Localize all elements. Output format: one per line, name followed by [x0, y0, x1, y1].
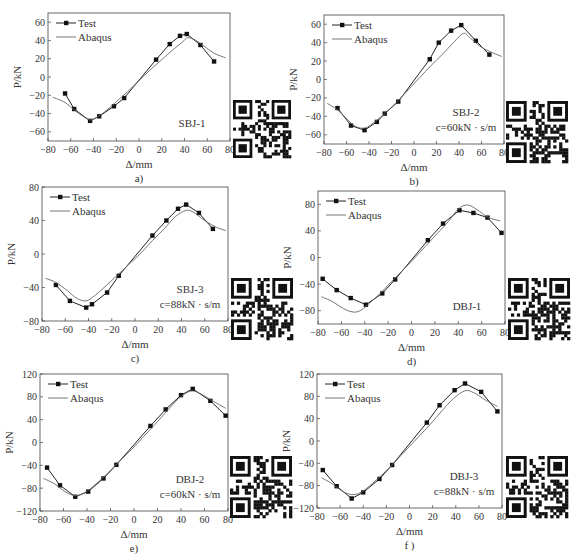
data-point [212, 59, 216, 63]
panel-label: e) [130, 542, 139, 554]
data-point [437, 403, 441, 407]
x-axis-label: Δ/mm [121, 338, 149, 350]
panel-label: a) [135, 172, 144, 185]
legend-marker-icon [340, 23, 344, 27]
chart-panel-f: −80−60−40−20020406080−120−80−4004080120Δ… [280, 369, 568, 553]
data-point [184, 202, 188, 206]
y-tick-label: 20 [311, 56, 321, 67]
data-point [178, 34, 182, 38]
legend-marker-icon [58, 195, 62, 199]
data-point [428, 57, 432, 61]
x-tick-label: 60 [202, 144, 212, 155]
legend-test-label: Test [72, 191, 90, 203]
data-point [164, 218, 168, 222]
data-point [154, 57, 158, 61]
x-tick-label: −40 [355, 511, 371, 522]
x-axis-label: Δ/mm [120, 528, 148, 540]
panel-label: b) [409, 175, 419, 188]
x-tick-label: 20 [153, 514, 163, 525]
x-tick-label: −20 [384, 147, 400, 158]
x-tick-label: −80 [316, 147, 332, 158]
x-tick-label: −60 [63, 144, 79, 155]
x-tick-label: 60 [477, 327, 487, 338]
x-tick-label: −20 [380, 327, 396, 338]
y-axis-label: P/kN [5, 243, 17, 266]
qr-code-icon [506, 456, 568, 518]
legend-abaqus-label: Abaqus [72, 205, 106, 217]
y-tick-label: −40 [23, 282, 39, 293]
x-axis-label: Δ/mm [400, 161, 428, 173]
damping-label: c=60kN · s/m [436, 121, 497, 133]
data-point [45, 465, 49, 469]
x-tick-label: 40 [453, 327, 463, 338]
x-axis-label: Δ/mm [398, 341, 426, 353]
legend-marker-icon [56, 382, 60, 386]
x-axis-label: Δ/mm [396, 525, 424, 537]
x-tick-label: −60 [56, 514, 72, 525]
specimen-label: SBJ-3 [177, 283, 204, 295]
y-tick-label: 40 [29, 215, 39, 226]
x-tick-label: 40 [451, 511, 461, 522]
data-point [471, 211, 475, 215]
legend-marker-icon [334, 199, 338, 203]
y-tick-label: 0 [32, 437, 37, 448]
y-tick-label: 40 [304, 413, 314, 424]
x-tick-label: −20 [103, 514, 119, 525]
data-point [90, 302, 94, 306]
x-tick-label: −60 [57, 324, 73, 335]
legend-test-label: Test [78, 17, 96, 29]
data-point [150, 233, 154, 237]
specimen-label: SBJ-1 [179, 117, 206, 129]
data-point [105, 290, 109, 294]
data-point [321, 468, 325, 472]
chart-panel-a: −80−60−40−20020406080−60−40−200204060Δ/m… [11, 13, 291, 185]
x-tick-label: 40 [177, 324, 187, 335]
damping-label: c=60kN · s/m [160, 488, 221, 500]
data-point [425, 420, 429, 424]
y-tick-label: −20 [29, 90, 45, 101]
y-tick-label: −60 [305, 129, 321, 140]
data-point [459, 23, 463, 27]
y-tick-label: −80 [298, 480, 314, 491]
y-tick-label: 40 [35, 35, 45, 46]
legend-marker-icon [333, 382, 337, 386]
x-tick-label: −80 [40, 144, 56, 155]
data-point [84, 305, 88, 309]
y-tick-label: −80 [23, 316, 39, 327]
x-tick-label: 0 [409, 327, 414, 338]
x-tick-label: 20 [157, 144, 167, 155]
y-tick-label: −40 [298, 458, 314, 469]
y-axis-label: P/kN [3, 431, 15, 454]
x-tick-label: 0 [133, 324, 138, 335]
y-tick-label: 0 [34, 249, 39, 260]
series-abaqus [53, 38, 226, 120]
legend-test-label: Test [348, 195, 366, 207]
legend-abaqus-label: Abaqus [78, 31, 112, 43]
specimen-label: DBJ-2 [176, 473, 205, 485]
data-point [335, 288, 339, 292]
y-tick-label: 0 [316, 74, 321, 85]
x-tick-label: −60 [334, 327, 350, 338]
x-tick-label: 40 [454, 147, 464, 158]
legend-abaqus-label: Abaqus [347, 392, 381, 404]
y-tick-label: 80 [304, 391, 314, 402]
x-axis: −80−60−40−20020406080 [309, 505, 507, 522]
x-axis: −80−60−40−20020406080 [316, 141, 509, 158]
y-axis: −120−80−4004080120 [16, 369, 43, 517]
y-tick-label: 40 [305, 225, 315, 236]
data-point [185, 32, 189, 36]
y-axis-label: P/kN [11, 66, 23, 89]
chart-panel-b: −80−60−40−20020406080−60−40−200204060Δ/m… [287, 15, 568, 188]
legend: TestAbaqus [332, 19, 388, 45]
y-tick-label: 80 [29, 182, 39, 193]
x-tick-label: 20 [428, 511, 438, 522]
legend: TestAbaqus [50, 191, 106, 217]
y-tick-label: −60 [29, 126, 45, 137]
data-point [211, 227, 215, 231]
y-tick-label: 0 [310, 252, 315, 263]
series-test [63, 32, 216, 123]
data-point [495, 409, 499, 413]
series-test [320, 208, 503, 307]
x-axis-label: Δ/mm [125, 158, 153, 170]
data-point [479, 390, 483, 394]
